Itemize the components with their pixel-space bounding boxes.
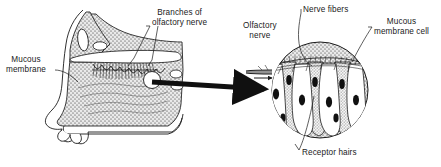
- label-branches-line2: olfactory nerve: [152, 18, 207, 28]
- label-branches-line1: Branches of: [152, 8, 207, 18]
- leader-mucous-cell: [352, 27, 372, 62]
- label-olfactory-nerve: Olfactory nerve: [243, 21, 277, 40]
- label-olfactory-nerve-line2: nerve: [243, 31, 277, 41]
- label-mucous-membrane-cell: Mucous membrane cell: [374, 17, 429, 36]
- label-olfactory-nerve-line1: Olfactory: [243, 21, 277, 31]
- nasal-cavity-panel: [45, 10, 183, 144]
- label-mucous-membrane-line1: Mucous: [6, 55, 46, 65]
- label-mucous-cell-line2: membrane cell: [374, 27, 429, 37]
- label-mucous-cell-line1: Mucous: [374, 17, 429, 27]
- superior-meatus: [93, 42, 107, 50]
- label-mucous-membrane: Mucous membrane: [6, 55, 46, 74]
- mucous-membrane-cells: [279, 62, 353, 136]
- figure-canvas: Mucous membrane Branches of olfactory ne…: [0, 0, 441, 167]
- label-nerve-fibers: Nerve fibers: [303, 5, 348, 15]
- label-mucous-membrane-line2: membrane: [6, 65, 46, 75]
- olfactory-nerve-trunk: [246, 65, 272, 78]
- olfactory-epithelium-inset: [246, 42, 372, 138]
- label-branches-of-olfactory-nerve: Branches of olfactory nerve: [152, 8, 207, 27]
- label-receptor-hairs: Receptor hairs: [302, 148, 357, 158]
